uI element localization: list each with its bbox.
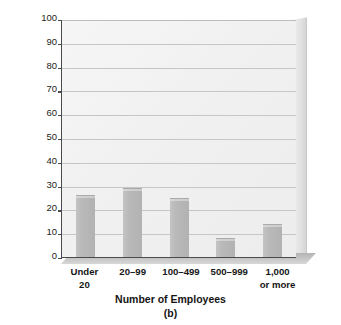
bar-highlight xyxy=(170,199,189,201)
x-axis-tick-label-line2: or more xyxy=(246,279,310,291)
y-axis-tick-label: 80 xyxy=(31,61,57,71)
y-axis-tick-label: 30 xyxy=(31,180,57,190)
plot-area-3d xyxy=(61,20,307,265)
bar-slot xyxy=(123,20,142,258)
x-axis-tick-label-line2: 20 xyxy=(52,279,116,291)
y-axis-tick-label: 10 xyxy=(31,227,57,237)
y-axis-tick-label: 90 xyxy=(31,37,57,47)
bar-highlight xyxy=(263,225,282,227)
y-axis-tick-label: 20 xyxy=(31,203,57,213)
bar xyxy=(263,224,282,258)
y-axis-tick-label: 50 xyxy=(31,132,57,142)
bar-slot xyxy=(76,20,95,258)
bar-chart-figure: Percentage of All U.S. Workers 010203040… xyxy=(0,0,341,325)
y-axis-tick-labels: 0102030405060708090100 xyxy=(31,18,57,266)
x-axis-title: Number of Employees xyxy=(0,293,341,305)
y-axis-tick-label: 60 xyxy=(31,108,57,118)
bar-series xyxy=(62,20,296,258)
x-axis-tick-label-line1: 500–999 xyxy=(211,266,248,277)
x-axis-tick-label-line1: Under xyxy=(71,266,99,277)
plot-area xyxy=(61,20,296,258)
bar-highlight xyxy=(76,196,95,198)
bar-slot xyxy=(263,20,282,258)
bar-slot xyxy=(170,20,189,258)
y-axis-tickmark xyxy=(58,258,62,259)
y-axis-tick-label: 40 xyxy=(31,156,57,166)
figure-caption: (b) xyxy=(0,307,341,319)
bar xyxy=(76,195,95,258)
y-axis-tick-label: 0 xyxy=(31,251,57,261)
bar-highlight xyxy=(123,189,142,191)
y-axis-tick-label: 70 xyxy=(31,84,57,94)
x-axis-tick-label-line1: 20–99 xyxy=(119,266,146,277)
x-axis-tick-label-line1: 1,000 xyxy=(266,266,290,277)
bar xyxy=(216,238,235,258)
bar xyxy=(123,188,142,258)
bar-slot xyxy=(216,20,235,258)
bar-highlight xyxy=(216,239,235,241)
bar xyxy=(170,198,189,259)
x-axis-tick-label: 1,000or more xyxy=(246,266,310,291)
y-axis-tick-label: 100 xyxy=(31,13,57,23)
x-axis-tick-label-line1: 100–499 xyxy=(162,266,199,277)
